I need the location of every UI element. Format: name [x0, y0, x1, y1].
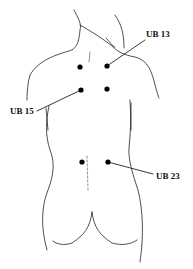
label-ub13: UB 13	[146, 30, 170, 39]
spine-mark-lower	[87, 156, 88, 190]
leader-ub15	[37, 90, 81, 111]
label-ub23: UB 23	[156, 172, 180, 181]
acupoint-ub15	[78, 87, 83, 92]
right-buttock-outline	[92, 212, 137, 244]
acupoint-ub13	[104, 63, 109, 68]
leader-ub13	[107, 40, 145, 66]
spine-mark-upper	[89, 52, 90, 62]
label-ub15: UB 15	[10, 107, 34, 116]
acupoint-left-ub23	[79, 159, 84, 164]
acupoint-ub23	[105, 159, 110, 164]
back-figure-drawing	[0, 0, 193, 269]
left-neck-shoulder-outline	[27, 10, 81, 100]
acupoint-right-ub15	[104, 86, 109, 91]
left-buttock-outline	[53, 212, 92, 244]
hair-strand	[115, 15, 124, 48]
acupoint-left-ub13	[77, 64, 82, 69]
